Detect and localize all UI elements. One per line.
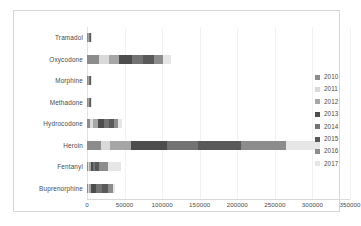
bar-segment[interactable] — [132, 55, 143, 64]
bar-segment[interactable] — [110, 141, 130, 150]
bar-segment[interactable] — [113, 184, 116, 193]
legend-swatch-icon — [315, 124, 320, 129]
category-label: Morphine — [17, 76, 83, 85]
category-label: Fentanyl — [17, 162, 83, 171]
category-label: Heroin — [17, 141, 83, 150]
legend-label: 2014 — [324, 124, 338, 130]
plot-area: TramadolOxycodoneMorphineMethadoneHydroc… — [87, 27, 350, 199]
bar-segment[interactable] — [143, 55, 154, 64]
legend-item-2010[interactable]: 2010 — [315, 71, 359, 83]
legend-item-2011[interactable]: 2011 — [315, 83, 359, 95]
category-label: Buprenorphine — [17, 184, 83, 193]
stacked-bar[interactable] — [87, 119, 122, 128]
bar-segment[interactable] — [91, 98, 92, 107]
bar-row: Fentanyl — [87, 156, 350, 178]
bar-segment[interactable] — [118, 119, 122, 128]
stacked-bar[interactable] — [87, 76, 92, 85]
legend-item-2016[interactable]: 2016 — [315, 145, 359, 157]
chart-legend: 20102011201220132014201520162017 — [315, 71, 359, 170]
legend-item-2015[interactable]: 2015 — [315, 133, 359, 145]
bar-row: Buprenorphine — [87, 178, 350, 200]
legend-swatch-icon — [315, 87, 320, 92]
legend-label: 2016 — [324, 148, 338, 154]
category-label: Methadone — [17, 98, 83, 107]
bar-segment[interactable] — [163, 55, 171, 64]
legend-swatch-icon — [315, 75, 320, 80]
category-label: Oxycodone — [17, 55, 83, 64]
bar-segment[interactable] — [131, 141, 167, 150]
x-tick-label: 300000 — [302, 201, 323, 208]
legend-swatch-icon — [315, 99, 320, 104]
legend-item-2012[interactable]: 2012 — [315, 96, 359, 108]
bar-segment[interactable] — [167, 141, 199, 150]
bar-row: Heroin — [87, 135, 350, 157]
category-label: Hydrocodone — [17, 119, 83, 128]
x-tick-label: 150000 — [189, 201, 210, 208]
legend-label: 2013 — [324, 111, 338, 117]
stacked-bar[interactable] — [87, 184, 115, 193]
legend-label: 2017 — [324, 161, 338, 167]
bar-segment[interactable] — [108, 162, 120, 171]
stacked-bar[interactable] — [87, 55, 171, 64]
legend-swatch-icon — [315, 137, 320, 142]
bar-rows: TramadolOxycodoneMorphineMethadoneHydroc… — [87, 27, 350, 199]
bar-segment[interactable] — [241, 141, 286, 150]
chart-frame: TramadolOxycodoneMorphineMethadoneHydroc… — [13, 10, 340, 212]
stacked-bar[interactable] — [87, 162, 121, 171]
bar-row: Oxycodone — [87, 49, 350, 71]
legend-swatch-icon — [315, 161, 320, 166]
x-axis-tick-labels: 0500001000001500002000002500003000003500… — [87, 201, 350, 213]
x-tick-label: 250000 — [264, 201, 285, 208]
x-tick-label: 50000 — [116, 201, 134, 208]
legend-label: 2010 — [324, 74, 338, 80]
bar-row: Tramadol — [87, 27, 350, 49]
bar-segment[interactable] — [91, 33, 92, 42]
legend-swatch-icon — [315, 149, 320, 154]
x-tick-label: 100000 — [152, 201, 173, 208]
legend-label: 2015 — [324, 136, 338, 142]
legend-swatch-icon — [315, 112, 320, 117]
x-tick-label: 200000 — [227, 201, 248, 208]
legend-label: 2012 — [324, 99, 338, 105]
bar-segment[interactable] — [87, 55, 99, 64]
bar-segment[interactable] — [154, 55, 163, 64]
bar-segment[interactable] — [198, 141, 241, 150]
bar-segment[interactable] — [99, 55, 109, 64]
bar-row: Methadone — [87, 92, 350, 114]
bar-row: Hydrocodone — [87, 113, 350, 135]
legend-item-2017[interactable]: 2017 — [315, 158, 359, 170]
category-label: Tramadol — [17, 33, 83, 42]
legend-label: 2011 — [324, 86, 338, 92]
bar-row: Morphine — [87, 70, 350, 92]
stacked-bar[interactable] — [87, 98, 92, 107]
bar-segment[interactable] — [109, 55, 120, 64]
x-tick-label: 0 — [85, 201, 89, 208]
bar-segment[interactable] — [87, 141, 101, 150]
legend-item-2014[interactable]: 2014 — [315, 121, 359, 133]
bar-segment[interactable] — [91, 76, 92, 85]
bar-segment[interactable] — [119, 55, 132, 64]
legend-item-2013[interactable]: 2013 — [315, 108, 359, 120]
x-axis-line — [87, 199, 350, 200]
x-tick-label: 350000 — [339, 201, 360, 208]
bar-segment[interactable] — [101, 141, 111, 150]
stacked-bar[interactable] — [87, 33, 92, 42]
bar-segment[interactable] — [99, 162, 108, 171]
stacked-bar[interactable] — [87, 141, 320, 150]
